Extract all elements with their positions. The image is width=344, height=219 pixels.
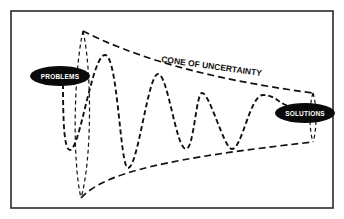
problems-label: PROBLEMS [41,73,80,80]
cone-lower-boundary [81,142,313,198]
solutions-label: SOLUTIONS [285,110,325,117]
problems-badge: PROBLEMS [30,66,90,86]
cone-of-uncertainty-diagram: PROBLEMS SOLUTIONS CONE OF UNCERTAINTY [0,0,344,219]
cone-wide-end [75,31,89,198]
solutions-badge: SOLUTIONS [275,103,335,123]
